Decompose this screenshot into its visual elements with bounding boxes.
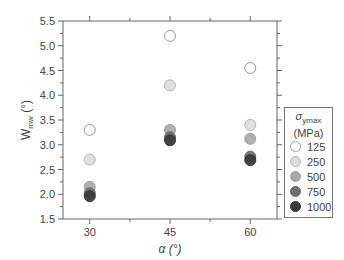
legend-items: 1252505007501000 — [285, 139, 332, 214]
legend-marker-icon — [290, 171, 301, 182]
legend-item-125: 125 — [285, 139, 332, 154]
legend-item-750: 750 — [285, 184, 332, 199]
legend-item-500: 500 — [285, 169, 332, 184]
legend-label: 1000 — [307, 201, 331, 213]
legend-label: 250 — [307, 156, 325, 168]
legend-marker-icon — [290, 201, 301, 212]
data-points — [84, 30, 256, 201]
data-point-1000 — [165, 135, 176, 146]
y-tick-label: 3.5 — [40, 114, 55, 126]
legend: σymax (MPa) 1252505007501000 — [284, 107, 333, 218]
data-point-1000 — [245, 155, 256, 166]
y-tick-label: 2.0 — [40, 188, 55, 200]
y-axis-label: Wmw (°) — [19, 100, 35, 140]
x-axis-label: α (°) — [159, 242, 182, 256]
legend-item-1000: 1000 — [285, 199, 332, 214]
x-tick-label: 45 — [164, 226, 176, 238]
data-point-1000 — [84, 191, 95, 202]
data-point-250 — [84, 154, 95, 165]
y-tick-label: 1.5 — [40, 213, 55, 225]
x-tick-label: 60 — [244, 226, 256, 238]
data-point-250 — [165, 80, 176, 91]
legend-marker-icon — [290, 186, 301, 197]
y-tick-label: 4.0 — [40, 89, 55, 101]
data-point-125 — [84, 124, 95, 135]
y-tick-label: 2.5 — [40, 164, 55, 176]
legend-item-250: 250 — [285, 154, 332, 169]
data-point-125 — [245, 63, 256, 74]
legend-label: 500 — [307, 171, 325, 183]
data-point-500 — [245, 133, 256, 144]
legend-marker-icon — [290, 141, 301, 152]
data-point-250 — [245, 119, 256, 130]
y-tick-label: 3.0 — [40, 139, 55, 151]
y-tick-label: 5.5 — [40, 15, 55, 27]
legend-label: 125 — [307, 141, 325, 153]
legend-marker-icon — [290, 156, 301, 167]
y-tick-label: 4.5 — [40, 65, 55, 77]
legend-label: 750 — [307, 186, 325, 198]
data-point-125 — [165, 30, 176, 41]
x-tick-label: 30 — [84, 226, 96, 238]
legend-title: σymax (MPa) — [285, 110, 332, 139]
y-tick-label: 5.0 — [40, 40, 55, 52]
